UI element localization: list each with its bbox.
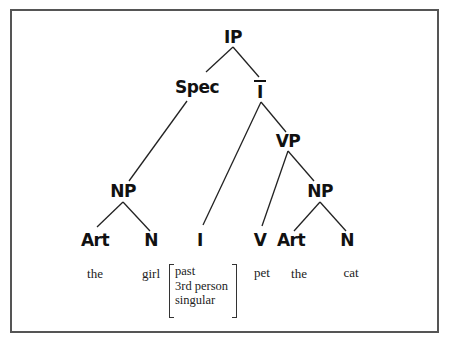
word-pet: pet (254, 265, 270, 281)
feature-person: 3rd person (175, 279, 236, 294)
feature-tense: past (175, 264, 236, 279)
node-n-object: N (340, 230, 354, 250)
node-v: V (254, 230, 267, 250)
feature-number: singular (175, 293, 236, 308)
node-n-subject: N (144, 230, 158, 250)
word-girl: girl (142, 266, 160, 282)
node-np-object: NP (307, 181, 333, 201)
word-cat: cat (343, 265, 358, 281)
node-art-object: Art (277, 230, 305, 250)
feature-bracket: past 3rd person singular (169, 264, 237, 318)
word-the-subject: the (87, 266, 103, 282)
node-art-subject: Art (81, 230, 109, 250)
node-np-subject: NP (110, 181, 136, 201)
word-the-object: the (291, 266, 307, 282)
node-i-bar: I (257, 82, 263, 102)
node-vp: VP (276, 131, 301, 151)
node-i-head: I (197, 230, 203, 250)
node-ip: IP (224, 27, 242, 47)
node-spec: Spec (175, 77, 219, 97)
